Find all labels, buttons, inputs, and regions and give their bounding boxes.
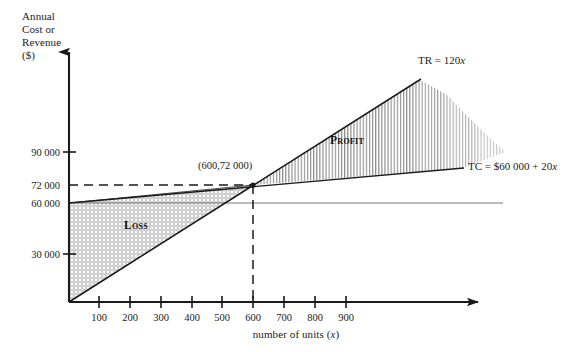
y-tick-label-60000: 60 000 [0, 198, 60, 209]
y-axis-title: Annual Cost or Revenue ($) [22, 10, 82, 62]
y-tick-label-90000: 90 000 [0, 147, 60, 158]
total-cost-line [69, 168, 464, 203]
x-tick-label-200: 200 [122, 312, 138, 323]
tr-label-variable: x [460, 54, 465, 66]
x-tick-label-800: 800 [307, 312, 323, 323]
x-tick-label-100: 100 [91, 312, 107, 323]
y-tick-label-72000: 72 000 [0, 180, 60, 191]
y-tick-label-30000: 30 000 [0, 249, 60, 260]
x-axis-title-prefix: number of units ( [253, 328, 331, 340]
x-tick-label-700: 700 [276, 312, 292, 323]
x-tick-label-300: 300 [153, 312, 169, 323]
total-revenue-line [69, 79, 421, 302]
tc-label-variable: x [552, 160, 557, 172]
tc-label-text: TC = $60 000 + 20 [468, 160, 552, 172]
loss-region-label: Loss [124, 219, 148, 231]
x-tick-label-900: 900 [338, 312, 354, 323]
breakeven-point-marker [250, 182, 255, 187]
chart-canvas [0, 0, 582, 352]
tr-label-text: TR = 120 [418, 54, 460, 66]
x-tick-label-400: 400 [184, 312, 200, 323]
x-tick-label-600: 600 [245, 312, 261, 323]
x-tick-label-500: 500 [214, 312, 230, 323]
total-cost-label: TC = $60 000 + 20x [468, 160, 557, 172]
breakeven-point-label: (600,72 000) [198, 160, 252, 171]
x-axis-title-suffix: ) [336, 328, 340, 340]
breakeven-chart-figure: Annual Cost or Revenue ($) 90 000 72 000… [0, 0, 582, 352]
profit-region-label: Profit [330, 134, 364, 146]
x-axis-title: number of units (x) [196, 328, 396, 341]
total-revenue-label: TR = 120x [418, 54, 465, 66]
